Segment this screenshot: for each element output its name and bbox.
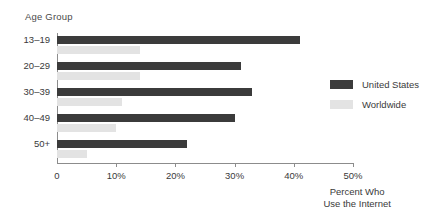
bar-worldwide <box>57 46 140 54</box>
bar-chart-figure: Age Group 13–1920–2930–3940–4950+ 010%20… <box>0 0 435 223</box>
bar-worldwide <box>57 124 116 132</box>
plot-area: 13–1920–2930–3940–4950+ <box>57 33 353 163</box>
category-label: 30–39 <box>24 86 50 97</box>
legend-swatch <box>330 100 353 109</box>
tick-label: 50% <box>343 170 362 181</box>
tick-mark <box>116 163 117 167</box>
legend-entry: Worldwide <box>330 94 419 114</box>
value-axis-title-line-1: Percent Who <box>323 186 391 198</box>
bar-group: 40–49 <box>57 111 353 137</box>
tick-mark <box>294 163 295 167</box>
legend-entry: United States <box>330 74 419 94</box>
tick-mark <box>175 163 176 167</box>
legend-swatch <box>330 80 353 89</box>
category-label: 13–19 <box>24 34 50 45</box>
chart-legend: United StatesWorldwide <box>330 74 419 114</box>
bar-united-states <box>57 36 300 44</box>
bar-group: 13–19 <box>57 33 353 59</box>
value-axis-title-line-2: Use the Internet <box>323 198 391 210</box>
value-axis-title: Percent Who Use the Internet <box>323 186 391 210</box>
legend-label: United States <box>362 79 419 90</box>
tick-label: 30% <box>225 170 244 181</box>
legend-label: Worldwide <box>362 99 406 110</box>
category-label: 40–49 <box>24 112 50 123</box>
bar-united-states <box>57 114 235 122</box>
category-label: 20–29 <box>24 60 50 71</box>
bar-united-states <box>57 140 187 148</box>
bar-group: 50+ <box>57 137 353 163</box>
category-axis-title: Age Group <box>25 11 73 22</box>
bar-group: 20–29 <box>57 59 353 85</box>
category-axis-line <box>57 163 353 164</box>
bar-united-states <box>57 62 241 70</box>
tick-label: 40% <box>284 170 303 181</box>
bar-worldwide <box>57 150 87 158</box>
category-label: 50+ <box>34 138 50 149</box>
bar-worldwide <box>57 72 140 80</box>
tick-mark <box>353 163 354 167</box>
tick-mark <box>235 163 236 167</box>
bar-united-states <box>57 88 252 96</box>
tick-label: 10% <box>107 170 126 181</box>
tick-label: 0 <box>54 170 59 181</box>
bar-worldwide <box>57 98 122 106</box>
tick-label: 20% <box>166 170 185 181</box>
bar-group: 30–39 <box>57 85 353 111</box>
